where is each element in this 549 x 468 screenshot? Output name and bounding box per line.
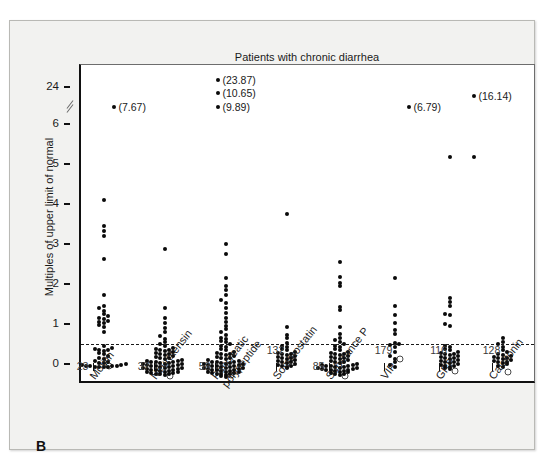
sample-size-label: 23 xyxy=(77,360,89,372)
data-point xyxy=(180,362,184,366)
sample-size-label: 132 xyxy=(267,344,285,356)
y-axis-tick-mark xyxy=(64,243,70,245)
data-point xyxy=(338,305,342,309)
data-point xyxy=(154,347,158,351)
sample-size-label: 116 xyxy=(430,344,447,356)
data-point xyxy=(224,345,228,349)
data-point xyxy=(393,276,397,280)
y-axis-tick-label: 24 xyxy=(46,80,59,92)
data-point xyxy=(163,306,167,310)
data-point xyxy=(163,326,167,330)
data-point xyxy=(448,345,452,349)
y-axis-tick-mark xyxy=(64,323,70,325)
data-point xyxy=(219,336,223,340)
data-point xyxy=(338,340,342,344)
data-point xyxy=(285,345,289,349)
data-point xyxy=(338,325,342,329)
data-point xyxy=(224,242,228,246)
data-point xyxy=(355,362,359,366)
y-axis-tick-label: 4 xyxy=(53,197,59,209)
data-point xyxy=(102,304,106,308)
data-point xyxy=(452,352,456,356)
data-point xyxy=(219,330,223,334)
data-point xyxy=(393,313,397,317)
data-point xyxy=(102,330,106,334)
figure-background: Patients with chronic diarrhea Multiples… xyxy=(9,20,535,450)
data-point xyxy=(93,347,97,351)
panel-letter: B xyxy=(36,438,46,454)
y-axis-tick-mark xyxy=(64,363,70,365)
data-point xyxy=(224,301,228,305)
data-point xyxy=(180,358,184,362)
data-point xyxy=(333,338,337,342)
data-point xyxy=(224,320,228,324)
data-point xyxy=(346,368,350,372)
data-point xyxy=(102,309,106,313)
data-point xyxy=(163,247,167,251)
y-axis-tick-label: 0 xyxy=(53,357,59,369)
data-point xyxy=(393,332,397,336)
data-point xyxy=(215,355,219,359)
data-point xyxy=(355,366,359,370)
data-point xyxy=(333,344,337,348)
data-point xyxy=(158,334,162,338)
y-axis-tick-label: 1 xyxy=(53,317,59,329)
data-point xyxy=(102,321,106,325)
data-point xyxy=(102,325,106,329)
data-point xyxy=(443,322,447,326)
data-point xyxy=(448,300,452,304)
data-point xyxy=(224,252,228,256)
data-point xyxy=(176,367,180,371)
data-point xyxy=(102,257,106,261)
data-point xyxy=(215,351,219,355)
data-point xyxy=(97,306,101,310)
data-point xyxy=(285,325,289,329)
outlier-data-point xyxy=(407,105,411,109)
data-point xyxy=(285,212,289,216)
data-point xyxy=(501,336,505,340)
data-point xyxy=(110,364,114,368)
data-point xyxy=(338,345,342,349)
data-point xyxy=(102,293,106,297)
data-point xyxy=(180,366,184,370)
data-point xyxy=(224,311,228,315)
outlier-data-point xyxy=(216,91,220,95)
sample-size-label: 85 xyxy=(313,360,325,372)
data-point xyxy=(224,293,228,297)
data-point xyxy=(285,341,289,345)
data-point xyxy=(456,358,460,362)
data-point xyxy=(224,337,228,341)
data-point xyxy=(163,344,167,348)
data-point xyxy=(163,316,167,320)
outlier-value-label: (9.89) xyxy=(223,101,250,113)
data-point xyxy=(448,313,452,317)
data-point xyxy=(97,320,101,324)
outlier-data-point xyxy=(216,78,220,82)
data-point xyxy=(102,198,106,202)
sample-size-label: 179 xyxy=(375,344,393,356)
data-point xyxy=(106,319,110,323)
data-point xyxy=(163,321,167,325)
data-point xyxy=(448,296,452,300)
data-point xyxy=(329,355,333,359)
y-axis-tick-label: 6 xyxy=(53,117,59,129)
data-point xyxy=(110,346,114,350)
data-point xyxy=(219,344,223,348)
data-point xyxy=(338,275,342,279)
data-point xyxy=(393,341,397,345)
data-point xyxy=(397,342,401,346)
data-point xyxy=(154,355,158,359)
data-point xyxy=(393,345,397,349)
data-point xyxy=(448,155,452,159)
median-marker xyxy=(396,356,403,363)
data-point xyxy=(351,367,355,371)
data-point xyxy=(472,155,476,159)
y-axis-tick-label: 2 xyxy=(53,277,59,289)
y-axis-tick-mark xyxy=(64,163,70,165)
data-point xyxy=(224,276,228,280)
data-point xyxy=(124,362,128,366)
data-point xyxy=(158,348,162,352)
outlier-value-label: (23.87) xyxy=(223,74,256,86)
data-point xyxy=(158,342,162,346)
y-axis-tick-mark xyxy=(64,283,70,285)
